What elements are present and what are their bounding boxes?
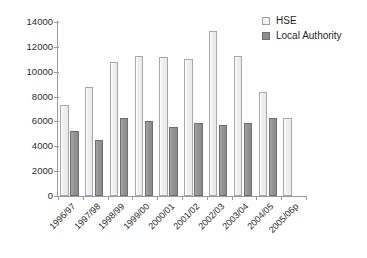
bar-group (182, 22, 207, 196)
y-axis-tick-label: 2000 (32, 166, 53, 176)
bar-group (157, 22, 182, 196)
x-axis-tick (108, 196, 109, 200)
y-axis-tick-label: 14000 (27, 17, 53, 27)
bar-group (207, 22, 232, 196)
x-axis-tick (182, 196, 183, 200)
bar-local-authority (169, 127, 178, 196)
x-axis-tick (207, 196, 208, 200)
bar-local-authority (120, 118, 129, 196)
x-axis-tick (157, 196, 158, 200)
bar-local-authority (95, 140, 104, 196)
bar-local-authority (244, 123, 253, 196)
y-axis-tick-label: 12000 (27, 42, 53, 52)
bar-local-authority (145, 121, 154, 196)
bar-group (281, 22, 306, 196)
x-axis-tick (132, 196, 133, 200)
x-axis-tick (58, 196, 59, 200)
chart-legend: HSE Local Authority (262, 14, 342, 44)
bar-group (83, 22, 108, 196)
legend-label-hse: HSE (276, 16, 297, 26)
legend-label-local-authority: Local Authority (276, 31, 342, 41)
x-axis-tick-label: 2003/04 (221, 202, 250, 231)
bar-group (108, 22, 133, 196)
y-axis-tick-label: 6000 (32, 117, 53, 127)
x-axis-tick-label: 2000/01 (147, 202, 176, 231)
bar-group (132, 22, 157, 196)
y-axis-tick-label: 8000 (32, 92, 53, 102)
x-axis-tick-label: 1997/98 (73, 202, 102, 231)
bar-local-authority (194, 123, 203, 196)
bar-hse (60, 105, 69, 196)
legend-item-hse: HSE (262, 14, 342, 28)
y-axis-tick-label: 0 (48, 191, 53, 201)
x-axis-tick (306, 196, 307, 200)
x-axis-tick (281, 196, 282, 200)
x-axis-tick-label: 1998/99 (97, 202, 126, 231)
legend-swatch-local-authority-icon (262, 32, 270, 40)
bar-hse (259, 92, 268, 196)
bar-hse (283, 118, 292, 196)
x-axis-tick-label: 2001/02 (172, 202, 201, 231)
x-axis-tick-label: 1999/00 (122, 202, 151, 231)
bar-chart: 02000400060008000100001200014000 HSE Loc… (0, 0, 367, 258)
bar-local-authority (219, 125, 228, 196)
bar-local-authority (269, 118, 278, 196)
bar-group (58, 22, 83, 196)
bar-hse (135, 56, 144, 196)
x-axis-tick (232, 196, 233, 200)
plot-area: 02000400060008000100001200014000 (58, 22, 306, 196)
x-axis-tick-label: 2002/03 (197, 202, 226, 231)
x-axis-tick-label: 1996/97 (48, 202, 77, 231)
x-axis-tick (256, 196, 257, 200)
bar-hse (184, 59, 193, 196)
bar-local-authority (70, 131, 79, 196)
bar-group (256, 22, 281, 196)
bar-hse (234, 56, 243, 196)
x-axis-tick (83, 196, 84, 200)
legend-item-local-authority: Local Authority (262, 29, 342, 43)
legend-swatch-hse-icon (262, 17, 270, 25)
y-axis-tick-label: 4000 (32, 142, 53, 152)
y-axis-tick-label: 10000 (27, 67, 53, 77)
bar-hse (159, 57, 168, 196)
bar-hse (85, 87, 94, 196)
bar-hse (110, 62, 119, 196)
bar-hse (209, 31, 218, 196)
bar-group (232, 22, 257, 196)
